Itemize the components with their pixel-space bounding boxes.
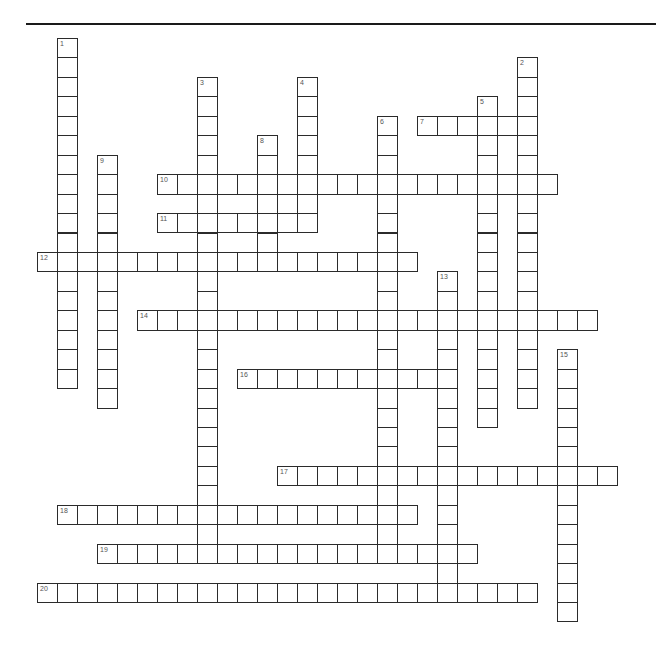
letter-input[interactable] [478, 253, 497, 271]
crossword-cell[interactable] [557, 408, 578, 428]
letter-input[interactable] [98, 545, 117, 563]
letter-input[interactable] [498, 467, 517, 485]
crossword-cell[interactable] [197, 291, 218, 311]
crossword-cell[interactable] [157, 252, 178, 272]
letter-input[interactable] [58, 253, 77, 271]
crossword-cell[interactable] [437, 369, 458, 389]
letter-input[interactable] [458, 117, 477, 135]
letter-input[interactable] [278, 506, 297, 524]
crossword-cell[interactable] [97, 213, 118, 233]
letter-input[interactable] [378, 428, 397, 446]
crossword-cell[interactable] [317, 505, 338, 525]
crossword-cell[interactable] [197, 116, 218, 136]
crossword-cell[interactable] [477, 233, 498, 253]
crossword-cell[interactable] [57, 310, 78, 330]
crossword-cell[interactable] [317, 466, 338, 486]
crossword-cell[interactable] [177, 544, 198, 564]
crossword-cell[interactable] [517, 155, 538, 175]
crossword-cell[interactable] [237, 310, 258, 330]
letter-input[interactable] [458, 311, 477, 329]
letter-input[interactable] [558, 525, 577, 543]
letter-input[interactable] [518, 331, 537, 349]
letter-input[interactable] [518, 253, 537, 271]
letter-input[interactable] [438, 350, 457, 368]
letter-input[interactable] [98, 584, 117, 602]
letter-input[interactable] [198, 234, 217, 252]
letter-input[interactable] [238, 545, 257, 563]
crossword-cell[interactable] [77, 252, 98, 272]
crossword-cell[interactable] [297, 194, 318, 214]
letter-input[interactable] [158, 175, 177, 193]
letter-input[interactable] [198, 447, 217, 465]
crossword-cell[interactable] [277, 369, 298, 389]
crossword-cell[interactable] [197, 427, 218, 447]
letter-input[interactable] [58, 214, 77, 232]
crossword-cell[interactable] [57, 77, 78, 97]
crossword-cell[interactable] [197, 349, 218, 369]
letter-input[interactable] [198, 311, 217, 329]
crossword-cell[interactable]: 4 [297, 77, 318, 97]
letter-input[interactable] [198, 545, 217, 563]
letter-input[interactable] [378, 214, 397, 232]
letter-input[interactable] [398, 545, 417, 563]
crossword-cell[interactable] [417, 310, 438, 330]
crossword-cell[interactable] [437, 544, 458, 564]
letter-input[interactable] [198, 272, 217, 290]
letter-input[interactable] [478, 195, 497, 213]
letter-input[interactable] [358, 584, 377, 602]
crossword-cell[interactable] [497, 466, 518, 486]
letter-input[interactable] [58, 136, 77, 154]
letter-input[interactable] [78, 253, 97, 271]
letter-input[interactable] [438, 175, 457, 193]
letter-input[interactable] [38, 584, 57, 602]
crossword-cell[interactable]: 18 [57, 505, 78, 525]
crossword-cell[interactable] [57, 583, 78, 603]
letter-input[interactable] [218, 506, 237, 524]
letter-input[interactable] [418, 175, 437, 193]
letter-input[interactable] [498, 117, 517, 135]
crossword-cell[interactable] [97, 349, 118, 369]
letter-input[interactable] [338, 175, 357, 193]
letter-input[interactable] [318, 467, 337, 485]
crossword-cell[interactable] [197, 174, 218, 194]
letter-input[interactable] [198, 584, 217, 602]
crossword-cell[interactable] [197, 544, 218, 564]
crossword-cell[interactable] [537, 466, 558, 486]
letter-input[interactable] [378, 195, 397, 213]
letter-input[interactable] [198, 506, 217, 524]
letter-input[interactable] [278, 253, 297, 271]
crossword-cell[interactable] [217, 583, 238, 603]
letter-input[interactable] [518, 272, 537, 290]
letter-input[interactable] [378, 409, 397, 427]
letter-input[interactable] [258, 175, 277, 193]
letter-input[interactable] [578, 311, 597, 329]
letter-input[interactable] [478, 214, 497, 232]
crossword-cell[interactable] [497, 116, 518, 136]
letter-input[interactable] [138, 253, 157, 271]
crossword-cell[interactable] [517, 174, 538, 194]
letter-input[interactable] [58, 272, 77, 290]
letter-input[interactable] [218, 584, 237, 602]
letter-input[interactable] [398, 506, 417, 524]
crossword-cell[interactable] [477, 174, 498, 194]
letter-input[interactable] [158, 545, 177, 563]
letter-input[interactable] [98, 389, 117, 407]
crossword-cell[interactable] [557, 563, 578, 583]
letter-input[interactable] [198, 428, 217, 446]
letter-input[interactable] [98, 311, 117, 329]
crossword-cell[interactable] [457, 544, 478, 564]
letter-input[interactable] [138, 506, 157, 524]
crossword-cell[interactable] [517, 116, 538, 136]
letter-input[interactable] [318, 584, 337, 602]
crossword-cell[interactable] [317, 369, 338, 389]
crossword-cell[interactable] [197, 408, 218, 428]
crossword-cell[interactable] [557, 524, 578, 544]
letter-input[interactable] [378, 175, 397, 193]
letter-input[interactable] [478, 156, 497, 174]
crossword-cell[interactable] [557, 485, 578, 505]
crossword-cell[interactable] [357, 252, 378, 272]
letter-input[interactable] [438, 311, 457, 329]
crossword-cell[interactable] [97, 233, 118, 253]
letter-input[interactable] [478, 331, 497, 349]
crossword-cell[interactable] [57, 116, 78, 136]
